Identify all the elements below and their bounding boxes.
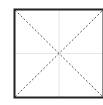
diagram-canvas [0,0,103,105]
